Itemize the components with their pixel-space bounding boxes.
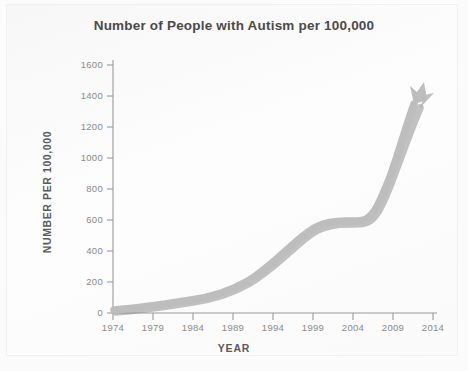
- ytick-label-1400: 1400: [69, 90, 103, 101]
- y-axis-label: NUMBER PER 100,000: [41, 102, 53, 282]
- ytick-label-0: 0: [69, 307, 103, 318]
- x-tick-marks: [113, 313, 433, 320]
- ytick-label-400: 400: [69, 245, 103, 256]
- xtick-label-1974: 1974: [93, 322, 133, 333]
- y-tick-marks: [107, 65, 113, 313]
- xtick-label-2009: 2009: [373, 322, 413, 333]
- x-axis-label: YEAR: [0, 342, 468, 354]
- xtick-label-1979: 1979: [133, 322, 173, 333]
- ytick-label-1000: 1000: [69, 152, 103, 163]
- ytick-label-800: 800: [69, 183, 103, 194]
- plot-area: 0 200 400 600 800 1000 1200 1400 1600 19…: [0, 0, 468, 371]
- ytick-label-1600: 1600: [69, 59, 103, 70]
- ytick-label-600: 600: [69, 214, 103, 225]
- chart-figure: Number of People with Autism per 100,000: [0, 0, 468, 371]
- autism-rate-curve: [114, 104, 414, 310]
- ytick-label-1200: 1200: [69, 121, 103, 132]
- xtick-label-1994: 1994: [253, 322, 293, 333]
- ytick-label-200: 200: [69, 276, 103, 287]
- xtick-label-1999: 1999: [293, 322, 333, 333]
- xtick-label-2014: 2014: [413, 322, 453, 333]
- xtick-label-1984: 1984: [173, 322, 213, 333]
- xtick-label-1989: 1989: [213, 322, 253, 333]
- xtick-label-2004: 2004: [333, 322, 373, 333]
